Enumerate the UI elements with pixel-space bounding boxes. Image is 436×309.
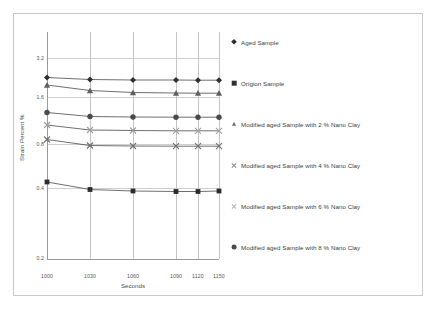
legend-item-label: Modified aged Sample with 8 % Nano Clay — [241, 244, 360, 251]
legend-item-nano-clay-8[interactable]: Modified aged Sample with 8 % Nano Clay — [229, 241, 360, 253]
cross-light-icon — [229, 201, 239, 211]
diamond-icon — [229, 37, 239, 47]
gridline-vertical — [198, 32, 199, 259]
chart-legend: Aged Sample Origion Sample Modified aged… — [229, 36, 425, 256]
y-tick-label: 0.4 — [18, 185, 44, 191]
y-axis-title: Strain Percent % — [18, 98, 30, 178]
y-tick-text: 0.2 — [20, 255, 44, 261]
legend-item-nano-clay-2[interactable]: Modified aged Sample with 2 % Nano Clay — [229, 118, 360, 130]
x-tick-text: 1120 — [192, 273, 204, 279]
x-axis-line — [47, 259, 219, 260]
gridline-vertical — [219, 32, 220, 259]
legend-item-nano-clay-6[interactable]: Modified aged Sample with 6 % Nano Clay — [229, 200, 360, 212]
x-tick-label: 1060 — [118, 264, 148, 282]
x-tick-text: 1090 — [170, 273, 182, 279]
y-tick-label: 3.2 — [18, 55, 44, 61]
legend-item-label: Modified aged Sample with 6 % Nano Clay — [241, 203, 360, 210]
legend-item-aged-sample[interactable]: Aged Sample — [229, 36, 279, 48]
legend-item-nano-clay-4[interactable]: Modified aged Sample with 4 % Nano Clay — [229, 159, 360, 171]
x-axis-title: Seconds — [47, 282, 219, 289]
gridline-vertical — [90, 32, 91, 259]
cross-icon — [229, 160, 239, 170]
x-tick-label: 1000 — [32, 264, 62, 282]
legend-item-label: Modified aged Sample with 4 % Nano Clay — [241, 162, 360, 169]
y-tick-text: 3.2 — [20, 55, 44, 61]
x-tick-text: 1060 — [127, 273, 139, 279]
x-tick-text: 1150 — [213, 273, 225, 279]
chart-figure: 3.2 1.6 0.8 0.4 0.2 1000 1030 1060 1090 … — [0, 0, 436, 309]
x-tick-text: 1030 — [84, 273, 96, 279]
x-tick-label: 1030 — [75, 264, 105, 282]
legend-item-label: Modified aged Sample with 2 % Nano Clay — [241, 121, 360, 128]
legend-item-origion-sample[interactable]: Origion Sample — [229, 77, 284, 89]
gridline-vertical — [176, 32, 177, 259]
x-tick-label: 1150 — [204, 264, 234, 282]
gridline-vertical — [133, 32, 134, 259]
y-tick-label: 0.2 — [18, 255, 44, 261]
x-tick-text: 1000 — [41, 273, 53, 279]
y-tick-text: 0.4 — [20, 185, 44, 191]
triangle-icon — [229, 119, 239, 129]
legend-item-label: Aged Sample — [241, 39, 279, 46]
legend-item-label: Origion Sample — [241, 80, 284, 87]
circle-icon — [229, 242, 239, 252]
square-icon — [229, 78, 239, 88]
y-axis-line — [47, 32, 48, 259]
